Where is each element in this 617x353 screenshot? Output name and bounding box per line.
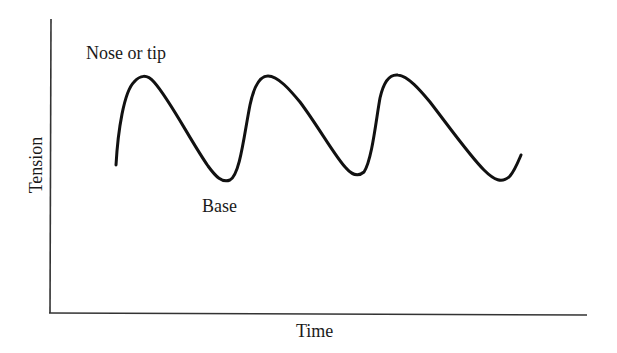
y-axis-label: Tension	[27, 137, 45, 194]
tension-waveform-diagram: Nose or tip Base Time Tension	[0, 0, 617, 353]
trough-annotation-label: Base	[202, 197, 237, 215]
x-axis-line	[49, 313, 587, 315]
x-axis-label: Time	[296, 322, 333, 340]
y-axis-line	[50, 19, 51, 313]
tension-curve	[116, 75, 521, 181]
peak-annotation-label: Nose or tip	[86, 44, 166, 62]
